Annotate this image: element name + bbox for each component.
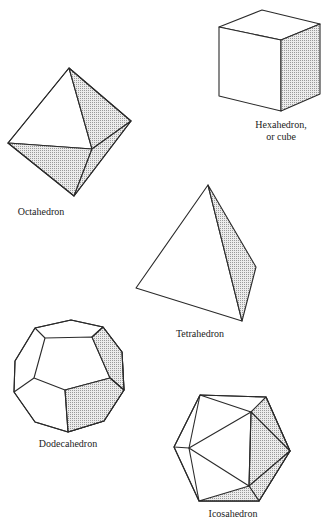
octahedron-label: Octahedron — [10, 206, 72, 218]
hexahedron-drawing — [219, 10, 320, 111]
tetrahedron-label: Tetrahedron — [168, 328, 232, 340]
icosahedron-label: Icosahedron — [200, 508, 266, 520]
dodecahedron-drawing — [14, 320, 124, 432]
hexahedron-label: Hexahedron, — [250, 119, 312, 131]
icosahedron-drawing — [174, 395, 290, 501]
octahedron-drawing — [8, 68, 131, 196]
cube-label: or cube — [250, 131, 312, 143]
dodecahedron-label: Dodecahedron — [32, 438, 104, 450]
tetrahedron-drawing — [136, 185, 256, 321]
